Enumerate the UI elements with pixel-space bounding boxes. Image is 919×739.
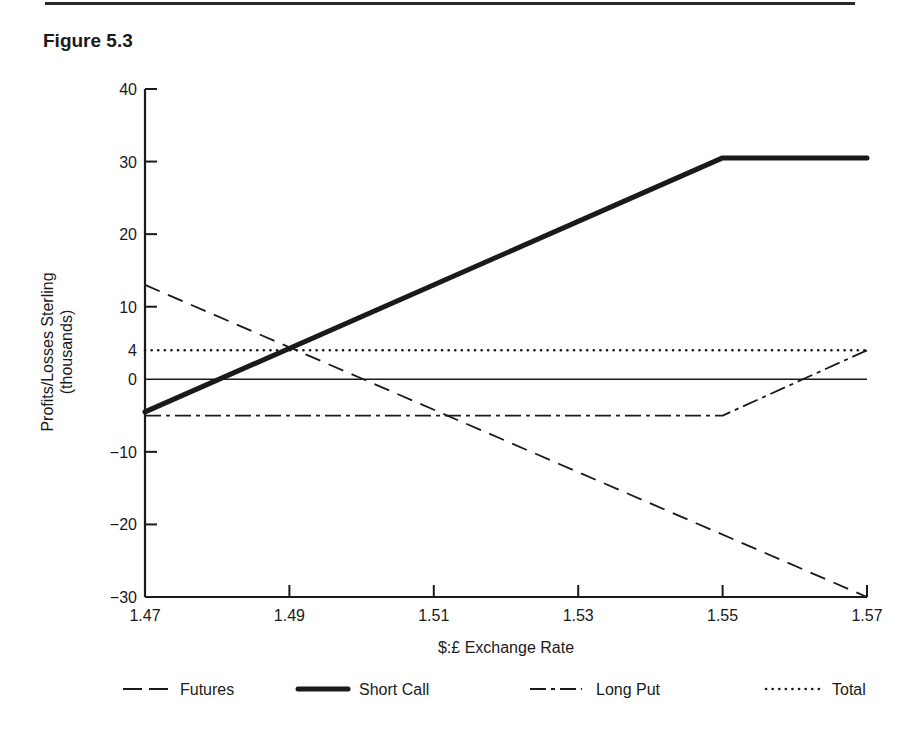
y-tick-label: 10 [119, 299, 137, 316]
legend-item-total: Total [766, 681, 866, 698]
legend-label-futures: Futures [180, 681, 234, 698]
y-tick-label: −20 [110, 516, 137, 533]
legend-label-short-call: Short Call [359, 681, 429, 698]
series-long-put [145, 350, 867, 415]
legend-label-long-put: Long Put [596, 681, 661, 698]
y-axis-sublabel: (thousands) [58, 310, 75, 395]
x-tick-label: 1.51 [418, 607, 449, 624]
x-tick-label: 1.53 [563, 607, 594, 624]
legend-item-short-call: Short Call [298, 681, 429, 698]
line-chart: 4030201040−10−20−301.471.491.511.531.551… [0, 0, 919, 739]
legend-label-total: Total [832, 681, 866, 698]
legend-item-long-put: Long Put [530, 681, 661, 698]
y-tick-label: 0 [128, 371, 137, 388]
y-tick-label: −10 [110, 444, 137, 461]
x-axis-label: $:£ Exchange Rate [438, 639, 574, 656]
y-tick-label: 30 [119, 154, 137, 171]
axes: 4030201040−10−20−301.471.491.511.531.551… [110, 81, 883, 624]
y-tick-label: 40 [119, 81, 137, 98]
y-tick-label: −30 [110, 589, 137, 606]
x-tick-label: 1.49 [274, 607, 305, 624]
series-group [145, 158, 867, 597]
y-tick-label: 20 [119, 226, 137, 243]
x-tick-label: 1.57 [851, 607, 882, 624]
series-short-call [145, 158, 867, 412]
y-tick-label: 4 [128, 342, 137, 359]
legend-item-futures: Futures [123, 681, 234, 698]
series-futures [145, 285, 867, 597]
x-tick-label: 1.55 [707, 607, 738, 624]
x-tick-label: 1.47 [129, 607, 160, 624]
legend: FuturesShort CallLong PutTotal [123, 681, 866, 698]
y-axis-label: Profits/Losses Sterling [39, 272, 56, 431]
